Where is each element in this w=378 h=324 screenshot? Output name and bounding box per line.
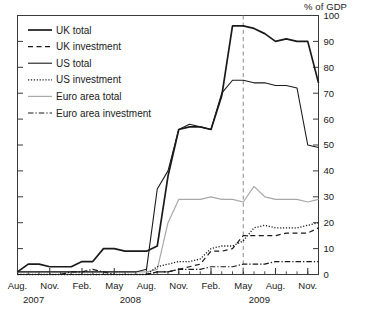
y-axis-tick-label: 30 [324, 191, 335, 202]
legend-label-5: Euro area investment [56, 108, 151, 119]
legend-label-0: UK total [56, 25, 92, 36]
series-line-euro-area-total [18, 186, 319, 271]
y-axis-tick-label: 0 [324, 269, 329, 280]
legend-label-1: UK investment [56, 41, 121, 52]
y-axis-tick-label: 70 [324, 88, 335, 99]
y-axis-tick-label: 20 [324, 217, 335, 228]
x-axis-tick-label: Feb. [201, 280, 220, 291]
legend-label-2: US total [56, 58, 92, 69]
y-axis-tick-label: 60 [324, 114, 335, 125]
chart-figure: % of GDP 0102030405060708090100Aug.Nov.F… [0, 0, 378, 324]
x-axis-tick-label: Aug. [137, 280, 157, 291]
y-axis-tick-label: 40 [324, 165, 335, 176]
y-axis-tick-label: 80 [324, 62, 335, 73]
x-axis-tick-label: Nov. [298, 280, 317, 291]
y-axis-tick-label: 10 [324, 243, 335, 254]
x-axis-tick-label: Aug. [266, 280, 286, 291]
x-axis-tick-label: May [105, 280, 123, 291]
x-axis-tick-label: Aug. [8, 280, 28, 291]
x-axis-tick-label: Feb. [72, 280, 91, 291]
x-axis-year-label: 2009 [249, 294, 270, 305]
x-axis-tick-label: May [234, 280, 252, 291]
chart-canvas: 0102030405060708090100Aug.Nov.Feb.MayAug… [0, 0, 378, 324]
x-axis-tick-label: Nov. [40, 280, 59, 291]
x-axis-year-label: 2007 [23, 294, 44, 305]
y-axis-tick-label: 90 [324, 36, 335, 47]
y-axis-tick-label: 100 [324, 10, 340, 21]
x-axis-year-label: 2008 [120, 294, 141, 305]
legend-label-3: US investment [56, 74, 121, 85]
plot-frame [18, 16, 319, 275]
legend-label-4: Euro area total [56, 91, 122, 102]
x-axis-tick-label: Nov. [169, 280, 188, 291]
y-axis-tick-label: 50 [324, 139, 335, 150]
